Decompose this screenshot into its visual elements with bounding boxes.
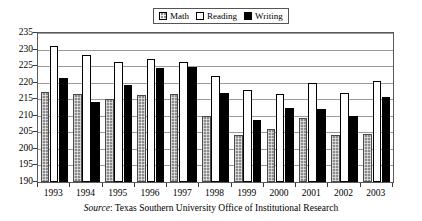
writing-swatch-icon <box>244 12 252 20</box>
x-tick-mark-2002 <box>327 183 328 187</box>
bar-math-1996 <box>137 95 146 182</box>
bar-reading-1993 <box>50 46 59 182</box>
x-tick-mark-2001 <box>295 183 296 187</box>
x-tick-label-2001: 2001 <box>302 188 321 199</box>
x-tick-mark-1998 <box>198 183 199 187</box>
x-tick-mark-1995 <box>102 183 103 187</box>
bar-writing-1999 <box>253 120 262 182</box>
y-axis-tick-marks <box>0 32 40 183</box>
bar-writing-1995 <box>124 85 133 182</box>
bar-math-2000 <box>267 129 276 182</box>
plot-inner <box>38 33 393 182</box>
legend-label-writing: Writing <box>255 12 283 21</box>
x-tick-label-1993: 1993 <box>44 188 63 199</box>
plot-area <box>37 32 394 183</box>
bar-reading-2001 <box>308 83 317 182</box>
x-axis: 1993199419951996199719981999200020012002… <box>37 183 394 201</box>
bar-reading-2003 <box>373 81 382 182</box>
bar-math-1995 <box>105 99 114 182</box>
source-prefix: Source <box>84 203 110 213</box>
x-tick-mark-1994 <box>69 183 70 187</box>
x-tick-label-2002: 2002 <box>334 188 353 199</box>
bar-reading-1997 <box>179 62 188 182</box>
bar-math-2001 <box>299 118 308 182</box>
x-tick-mark-1999 <box>231 183 232 187</box>
bar-writing-2002 <box>349 116 358 182</box>
bar-reading-1998 <box>211 76 220 182</box>
x-tick-mark-1997 <box>166 183 167 187</box>
gridline-230 <box>38 50 393 51</box>
legend-label-reading: Reading <box>207 12 237 21</box>
bar-writing-1996 <box>156 68 165 182</box>
bar-reading-1995 <box>114 62 123 182</box>
x-tick-mark-1993 <box>37 183 38 187</box>
gridline-225 <box>38 66 393 67</box>
bar-math-1999 <box>234 135 243 182</box>
bar-writing-2003 <box>382 97 391 182</box>
bar-reading-2002 <box>340 93 349 182</box>
x-tick-label-2003: 2003 <box>366 188 385 199</box>
gridline-235 <box>38 33 393 34</box>
bar-writing-1998 <box>220 93 229 182</box>
bar-reading-1994 <box>82 55 91 182</box>
legend-label-math: Math <box>170 12 189 21</box>
x-tick-label-1997: 1997 <box>173 188 192 199</box>
x-tick-label-1999: 1999 <box>237 188 256 199</box>
x-tick-mark-1996 <box>134 183 135 187</box>
x-tick-label-1994: 1994 <box>76 188 95 199</box>
bar-writing-2000 <box>285 108 294 182</box>
x-tick-mark-end <box>392 183 393 187</box>
bar-math-2003 <box>363 134 372 182</box>
bar-math-1993 <box>41 92 50 182</box>
legend-entry-writing: Writing <box>244 12 283 21</box>
bar-reading-1996 <box>147 59 156 182</box>
x-tick-label-1995: 1995 <box>108 188 127 199</box>
reading-swatch-icon <box>196 12 204 20</box>
x-tick-label-2000: 2000 <box>270 188 289 199</box>
bar-math-1997 <box>170 94 179 182</box>
source-separator: : <box>110 203 113 213</box>
bar-writing-2001 <box>317 109 326 182</box>
bar-math-1994 <box>73 94 82 182</box>
x-tick-label-1996: 1996 <box>140 188 159 199</box>
bar-writing-1993 <box>59 78 68 182</box>
math-swatch-icon <box>159 12 167 20</box>
chart-figure: Math Reading Writing 2352302252202152102… <box>0 0 422 221</box>
x-tick-label-1998: 1998 <box>205 188 224 199</box>
source-note: Source: Texas Southern University Office… <box>0 202 422 214</box>
x-tick-mark-2000 <box>263 183 264 187</box>
legend-entry-math: Math <box>159 12 189 21</box>
bar-math-2002 <box>331 135 340 182</box>
bar-reading-2000 <box>276 94 285 182</box>
x-tick-mark-2003 <box>360 183 361 187</box>
bar-math-1998 <box>202 116 211 182</box>
bar-writing-1997 <box>188 67 197 182</box>
bar-reading-1999 <box>243 90 252 182</box>
bar-writing-1994 <box>91 102 100 182</box>
chart-legend: Math Reading Writing <box>153 8 289 24</box>
source-text: Texas Southern University Office of Inst… <box>115 203 338 213</box>
legend-entry-reading: Reading <box>196 12 237 21</box>
